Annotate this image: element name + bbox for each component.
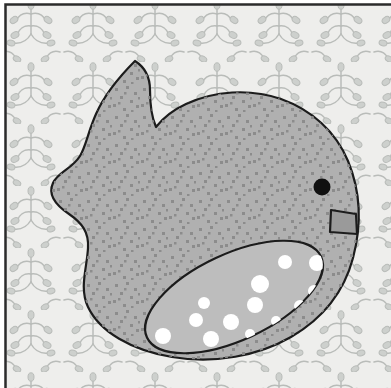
- artwork-frame: Stylized Bird on Patterned Background: [0, 0, 391, 388]
- wing-spot: [278, 255, 292, 269]
- wing-spot: [251, 275, 269, 293]
- wing-spot: [203, 331, 219, 347]
- wing-spot: [223, 314, 239, 330]
- bird-beak: [330, 210, 357, 234]
- wing-spot: [198, 297, 210, 309]
- wing-spot: [247, 297, 263, 313]
- bird-illustration-canvas: [0, 0, 391, 388]
- bird-eye: [314, 179, 331, 196]
- wing-spot: [189, 313, 203, 327]
- wing-spot: [155, 328, 171, 344]
